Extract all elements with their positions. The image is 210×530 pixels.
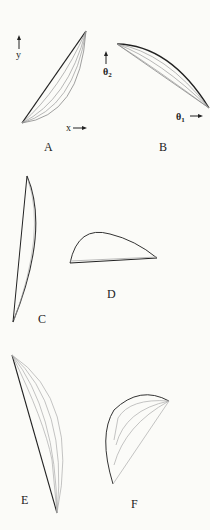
panel-e-chord	[12, 355, 57, 513]
panel-f-inner-curve	[114, 401, 169, 465]
theta2-axis-label: θ2	[103, 66, 112, 79]
panel-e-outer-curve	[12, 355, 63, 513]
panel-f-inner-curve	[116, 401, 169, 445]
panel-b-chord	[117, 44, 209, 108]
panel-a: y x A	[16, 31, 87, 154]
x-axis-arrow-icon	[73, 126, 87, 130]
panel-e: E	[12, 355, 63, 513]
x-axis-label: x	[66, 122, 71, 133]
panel-a-outer-chord	[22, 31, 86, 123]
panel-f-outer-curve	[106, 395, 169, 484]
panel-c-label: C	[38, 312, 46, 326]
panel-b: θ2 θ1 B	[103, 44, 209, 154]
panel-a-label: A	[44, 140, 53, 154]
panel-d: D	[70, 232, 157, 301]
panel-c-chord	[13, 176, 27, 322]
panel-c: C	[13, 176, 46, 326]
y-axis-label: y	[16, 49, 21, 60]
theta1-axis-arrow-icon	[190, 114, 203, 118]
panel-f-label: F	[131, 497, 138, 511]
panel-b-label: B	[159, 140, 167, 154]
y-axis-arrow-icon	[17, 35, 21, 49]
figure-canvas: y x A θ2 θ1 B C	[0, 0, 210, 530]
theta1-axis-label: θ1	[176, 111, 185, 124]
panel-d-label: D	[107, 287, 116, 301]
panel-f: F	[106, 395, 169, 511]
theta2-axis-arrow-icon	[104, 51, 108, 64]
panel-e-label: E	[21, 493, 28, 507]
